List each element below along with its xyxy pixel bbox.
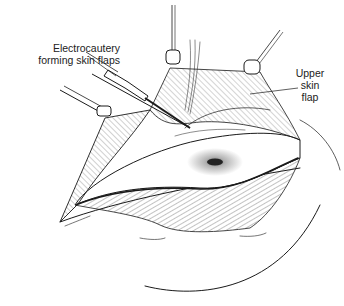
- nipple-areola: [187, 148, 243, 176]
- electrocautery-label: Electrocautery forming skin flaps: [10, 42, 120, 66]
- upper-flap-label-line2: skin: [285, 79, 335, 91]
- skin-hook-right: [244, 30, 283, 74]
- upper-skin-flap-label: Upper skin flap: [285, 67, 335, 103]
- skin-hook-top: [166, 5, 180, 64]
- electrocautery-label-line2: forming skin flaps: [10, 54, 120, 66]
- upper-flap-label-line1: Upper: [285, 67, 335, 79]
- surgical-illustration: Electrocautery forming skin flaps Upper …: [0, 0, 344, 306]
- skin-hook-left: [60, 86, 111, 116]
- upper-skin-flap: [150, 68, 300, 140]
- electrocautery-label-line1: Electrocautery: [10, 42, 120, 54]
- upper-flap-label-line3: flap: [285, 91, 335, 103]
